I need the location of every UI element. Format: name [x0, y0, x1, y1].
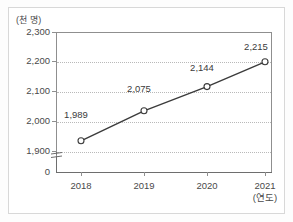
- series-line-population: [81, 62, 265, 141]
- data-point-2020: [204, 84, 210, 90]
- y-axis-origin-label: 0: [8, 167, 50, 177]
- y-axis-unit-label: (천 명): [16, 13, 42, 26]
- x-tick-mark-2020: [207, 172, 208, 176]
- x-axis-line: [56, 172, 272, 173]
- x-tick-mark-2021: [265, 172, 266, 176]
- x-axis-unit-label: (연도): [243, 192, 287, 203]
- x-tick-label-2020: 2020: [187, 180, 227, 191]
- x-tick-label-2021: 2021: [245, 180, 285, 191]
- y-tick-label-2100: 2,100: [8, 86, 50, 96]
- x-tick-label-2018: 2018: [61, 180, 101, 191]
- x-tick-mark-2019: [144, 172, 145, 176]
- data-label-2019: 2,075: [121, 84, 157, 94]
- data-label-2020: 2,144: [184, 63, 220, 73]
- data-point-2018: [78, 138, 84, 144]
- y-tick-label-1900: 1,900: [8, 146, 50, 156]
- y-tick-label-2300: 2,300: [8, 27, 50, 37]
- x-tick-mark-2018: [81, 172, 82, 176]
- x-tick-label-2019: 2019: [124, 180, 164, 191]
- data-point-2019: [141, 108, 147, 114]
- y-tick-label-2000: 2,000: [8, 116, 50, 126]
- y-tick-label-2200: 2,200: [8, 56, 50, 66]
- chart-figure: (천 명) 2,300 2,200 2,100 2,000 1,900 0 20…: [0, 0, 293, 222]
- data-series-layer: [56, 32, 272, 172]
- data-label-2018: 1,989: [58, 110, 94, 120]
- data-point-2021: [262, 59, 268, 65]
- data-label-2021: 2,215: [238, 42, 274, 52]
